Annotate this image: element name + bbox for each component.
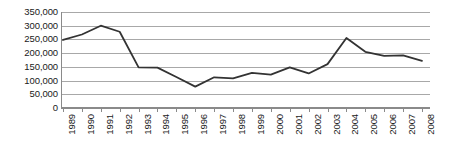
y-axis-tick-label: 150,000 bbox=[0, 62, 58, 72]
x-axis-tick bbox=[139, 108, 140, 112]
x-axis-tick-label: 2000 bbox=[275, 114, 285, 135]
x-axis-tick-label: 1995 bbox=[180, 114, 190, 135]
x-axis-tick bbox=[176, 108, 177, 112]
x-axis-tick bbox=[403, 108, 404, 112]
x-axis-tick-label: 1997 bbox=[218, 114, 228, 135]
x-axis-tick bbox=[101, 108, 102, 112]
x-axis-tick-label: 2004 bbox=[350, 114, 360, 135]
x-axis-tick-label: 1996 bbox=[199, 114, 209, 135]
x-axis-tick-label: 1991 bbox=[105, 114, 115, 135]
y-axis-tick-label: 250,000 bbox=[0, 35, 58, 45]
x-axis-tick-label: 1999 bbox=[256, 114, 266, 135]
line-chart: 350,000300,000250,000200,000150,000100,0… bbox=[0, 0, 456, 152]
x-axis-tick bbox=[271, 108, 272, 112]
x-axis-tick bbox=[346, 108, 347, 112]
x-axis-tick-label: 2007 bbox=[407, 114, 417, 135]
x-axis-tick-label: 1993 bbox=[143, 114, 153, 135]
y-axis-tick-label: 300,000 bbox=[0, 21, 58, 31]
y-axis-tick-label: 350,000 bbox=[0, 7, 58, 17]
x-axis-tick-label: 1989 bbox=[67, 114, 77, 135]
x-axis-tick bbox=[214, 108, 215, 112]
x-axis-tick bbox=[384, 108, 385, 112]
x-axis-tick-label: 2003 bbox=[332, 114, 342, 135]
x-axis-tick bbox=[422, 108, 423, 112]
x-axis-tick bbox=[195, 108, 196, 112]
x-axis-tick-label: 1992 bbox=[124, 114, 134, 135]
x-axis-tick-label: 2001 bbox=[294, 114, 304, 135]
y-axis-tick-label: 100,000 bbox=[0, 76, 58, 86]
x-axis-tick-label: 1990 bbox=[86, 114, 96, 135]
x-axis-tick-label: 2008 bbox=[426, 114, 436, 135]
x-axis-labels: 1989199019911992199319941995199619971998… bbox=[61, 108, 430, 152]
x-axis-tick-label: 1994 bbox=[161, 114, 171, 135]
y-axis-labels: 350,000300,000250,000200,000150,000100,0… bbox=[0, 0, 58, 152]
plot-area bbox=[61, 12, 430, 108]
x-axis-tick bbox=[63, 108, 64, 112]
x-axis-tick bbox=[233, 108, 234, 112]
x-axis-tick bbox=[328, 108, 329, 112]
x-axis-tick bbox=[290, 108, 291, 112]
x-axis-tick-label: 2006 bbox=[388, 114, 398, 135]
x-axis-tick-label: 2002 bbox=[313, 114, 323, 135]
x-axis-tick bbox=[309, 108, 310, 112]
x-axis-tick-label: 2005 bbox=[369, 114, 379, 135]
x-axis-tick-label: 1998 bbox=[237, 114, 247, 135]
x-axis-tick bbox=[365, 108, 366, 112]
y-axis-tick-label: 0 bbox=[0, 103, 58, 113]
x-axis-tick bbox=[82, 108, 83, 112]
x-axis-tick bbox=[252, 108, 253, 112]
y-axis-tick-label: 200,000 bbox=[0, 48, 58, 58]
x-axis-tick bbox=[120, 108, 121, 112]
series-line bbox=[61, 12, 430, 108]
y-axis-tick-label: 50,000 bbox=[0, 90, 58, 100]
x-axis-tick bbox=[157, 108, 158, 112]
